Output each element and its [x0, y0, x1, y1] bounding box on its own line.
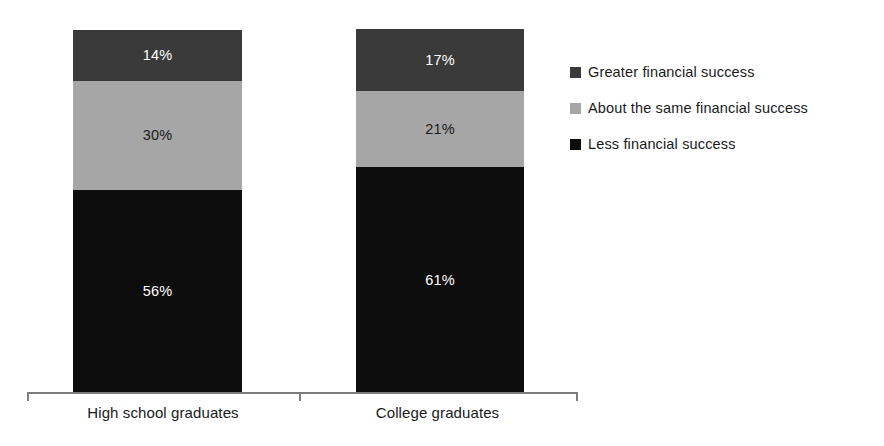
bar-segment-value-label: 56% [143, 284, 173, 299]
bar-segment-less[interactable]: 61% [356, 167, 524, 393]
bar-segment-value-label: 14% [143, 48, 173, 63]
bar-segment-greater[interactable]: 14% [73, 30, 242, 81]
bar-segment-greater[interactable]: 17% [356, 29, 524, 91]
square-marker-icon [570, 103, 581, 114]
axis-tick-end [576, 392, 578, 401]
chart-container: 14% 30% 56% 17% 21% 61% High sc [0, 0, 884, 446]
bar-segment-value-label: 30% [143, 128, 173, 143]
bar-segment-value-label: 17% [425, 53, 455, 68]
axis-label-college-graduates: College graduates [299, 404, 576, 421]
square-marker-icon [570, 67, 581, 78]
axis-tick-start [27, 392, 29, 401]
legend-item-greater-financial-success[interactable]: Greater financial success [570, 54, 875, 90]
axis-tick-middle [299, 392, 301, 401]
bar-segment-less[interactable]: 56% [73, 190, 242, 393]
legend-item-label: About the same financial success [588, 100, 808, 116]
category-axis-line [27, 392, 578, 394]
legend-item-label: Greater financial success [588, 64, 755, 80]
square-marker-icon [570, 139, 581, 150]
legend-item-less-financial-success[interactable]: Less financial success [570, 126, 875, 162]
bar-segment-about-same[interactable]: 30% [73, 81, 242, 190]
legend-item-about-the-same-financial-success[interactable]: About the same financial success [570, 90, 875, 126]
plot-area: 14% 30% 56% 17% 21% 61% High sc [0, 0, 600, 446]
bar-high-school-graduates[interactable]: 14% 30% 56% [73, 30, 242, 393]
bar-segment-about-same[interactable]: 21% [356, 91, 524, 167]
axis-label-high-school-graduates: High school graduates [27, 404, 299, 421]
bar-college-graduates[interactable]: 17% 21% 61% [356, 29, 524, 393]
chart-legend: Greater financial success About the same… [570, 54, 875, 162]
bar-segment-value-label: 21% [425, 122, 455, 137]
bar-segment-value-label: 61% [425, 273, 455, 288]
legend-item-label: Less financial success [588, 136, 736, 152]
